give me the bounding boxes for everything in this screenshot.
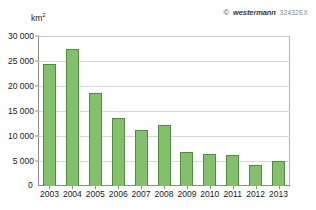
y-axis-unit-exponent: 2: [42, 12, 45, 18]
bar-2013: [272, 161, 285, 186]
figure-code: 32432EX: [280, 10, 308, 17]
bar-2012: [249, 165, 262, 187]
x-tick-mark: [141, 186, 142, 189]
credit-line: © westermann 32432EX: [224, 9, 308, 17]
x-tick-mark: [118, 186, 119, 189]
x-tick-mark: [187, 186, 188, 189]
x-tick-mark: [210, 186, 211, 189]
bar-2006: [112, 118, 125, 187]
copyright-icon: ©: [224, 9, 230, 17]
bar-2008: [158, 125, 171, 186]
y-tick-label: 5 000: [13, 157, 34, 166]
y-axis-unit: km2: [31, 14, 46, 23]
x-tick-label-2011: 2011: [224, 190, 242, 199]
x-tick-label-2009: 2009: [177, 190, 196, 199]
bar-2010: [203, 154, 216, 186]
x-tick-label-2003: 2003: [40, 190, 59, 199]
x-tick-mark: [72, 186, 73, 189]
x-axis-labels: 2003200420052006200720082009201020112012…: [38, 190, 290, 206]
x-tick-label-2004: 2004: [63, 190, 82, 199]
y-tick-label: 15 000: [8, 107, 34, 116]
x-tick-mark: [95, 186, 96, 189]
x-tick-mark: [49, 186, 50, 189]
x-tick-label-2010: 2010: [200, 190, 219, 199]
x-tick-mark: [279, 186, 280, 189]
x-tick-label-2005: 2005: [86, 190, 105, 199]
y-axis-unit-base: km: [31, 13, 42, 23]
bar-chart: © westermann 32432EX km2 0 5 00010 00015…: [0, 0, 316, 210]
bar-2003: [43, 64, 56, 186]
y-tick-label: 10 000: [8, 132, 34, 141]
bar-2004: [66, 49, 79, 186]
x-tick-label-2007: 2007: [132, 190, 151, 199]
bars-layer: [38, 36, 290, 186]
x-tick-mark: [233, 186, 234, 189]
y-tick-label: 20 000: [8, 82, 34, 91]
bar-2005: [89, 93, 102, 187]
bar-2011: [226, 155, 239, 186]
x-tick-label-2013: 2013: [269, 190, 288, 199]
publisher-name: westermann: [233, 9, 276, 17]
y-tick-label: 30 000: [8, 32, 34, 41]
x-tick-label-2012: 2012: [246, 190, 265, 199]
plot-area: 5 00010 00015 00020 00025 00030 000: [38, 36, 290, 186]
bar-2007: [135, 130, 148, 187]
bar-2009: [180, 152, 193, 186]
x-tick-mark: [164, 186, 165, 189]
x-tick-label-2008: 2008: [155, 190, 174, 199]
y-tick-label: 25 000: [8, 57, 34, 66]
x-tick-label-2006: 2006: [109, 190, 128, 199]
x-tick-mark: [256, 186, 257, 189]
y-tick-label-zero: 0: [28, 181, 33, 190]
